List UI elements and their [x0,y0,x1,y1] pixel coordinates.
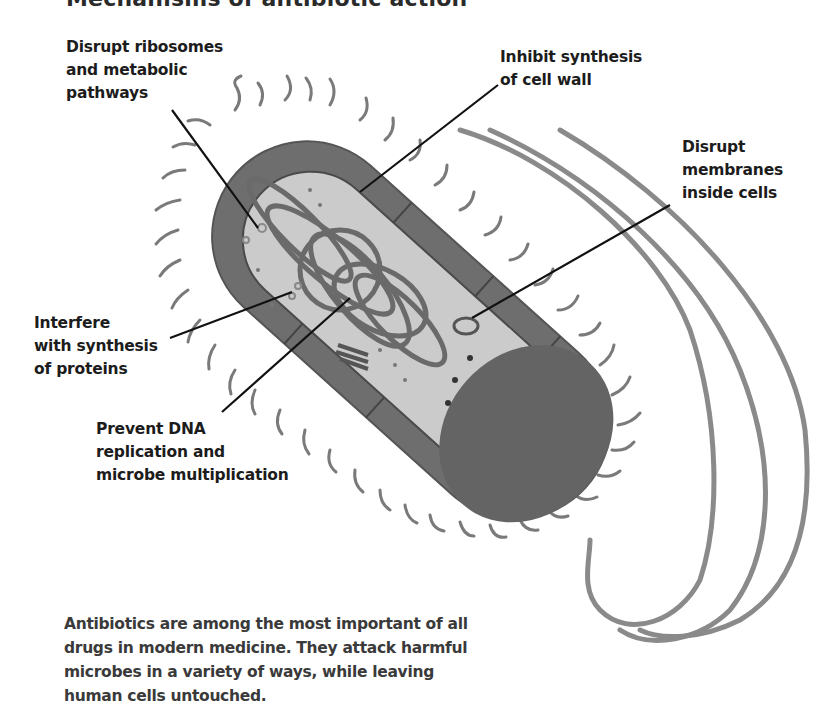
label-prevent-dna-replication: Prevent DNA replication and microbe mult… [96,418,289,487]
caption-text: Antibiotics are among the most important… [64,612,484,708]
label-disrupt-ribosomes: Disrupt ribosomes and metabolic pathways [66,36,223,105]
label-inhibit-cell-wall: Inhibit synthesis of cell wall [500,46,642,92]
label-disrupt-membranes: Disrupt membranes inside cells [682,136,783,205]
label-interfere-proteins: Interfere with synthesis of proteins [34,312,158,381]
